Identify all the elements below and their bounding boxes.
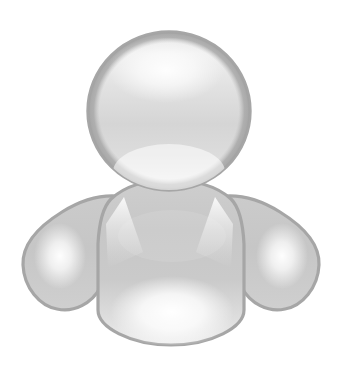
avatar-body-group: [23, 180, 319, 348]
avatar-head-group: [88, 32, 250, 200]
torso-gloss-highlight: [110, 276, 234, 348]
right-arm-gloss-highlight: [256, 223, 308, 289]
user-avatar-icon: [0, 0, 344, 371]
head-gloss-highlight: [108, 37, 224, 103]
torso-upper-sheen: [118, 210, 226, 262]
head-highlight-group: [88, 32, 250, 200]
left-arm-gloss-highlight: [34, 223, 86, 289]
avatar-canvas: User avatar: [0, 0, 344, 371]
